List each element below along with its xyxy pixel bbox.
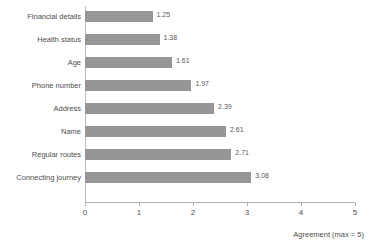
category-label-name: Name [0,126,81,137]
bar-row: 3.08 [85,172,355,183]
bar-value-label: 3.08 [255,170,269,181]
x-axis-title: Agreement (max = 5) [293,229,364,240]
x-axis-tick-label: 1 [127,207,151,218]
bar-row: 1.97 [85,80,355,91]
bar [85,103,214,114]
bar [85,149,231,160]
category-label-phone-number: Phone number [0,80,81,91]
bar-row: 2.39 [85,103,355,114]
bar-value-label: 1.61 [176,55,190,66]
bar-value-label: 1.25 [157,9,171,20]
x-axis-tick-label: 4 [289,207,313,218]
bar-row: 2.71 [85,149,355,160]
bar [85,80,191,91]
bar [85,126,226,137]
bar-row: 1.61 [85,57,355,68]
bar-row: 2.61 [85,126,355,137]
bar-value-label: 2.61 [230,124,244,135]
category-label-connecting-journey: Connecting journey [0,172,81,183]
x-axis-tick [139,203,140,206]
x-axis-tick [355,203,356,206]
category-label-regular-routes: Regular routes [0,149,81,160]
bar-value-label: 1.38 [164,32,178,43]
x-axis-tick [301,203,302,206]
bar-value-label: 1.97 [195,78,209,89]
bar-row: 1.38 [85,34,355,45]
x-axis-tick-label: 3 [235,207,259,218]
bar [85,172,251,183]
category-label-financial-details: Financial details [0,11,81,22]
bar-row: 1.25 [85,11,355,22]
bar-chart: Financial detailsHealth statusAgePhone n… [0,0,372,251]
category-label-health-status: Health status [0,34,81,45]
x-axis-tick-label: 0 [73,207,97,218]
category-label-address: Address [0,103,81,114]
bar [85,34,160,45]
x-axis-tick [193,203,194,206]
bar-value-label: 2.71 [235,147,249,158]
bar-series: 1.251.381.611.972.392.612.713.08 [85,6,355,202]
x-axis-tick-label: 5 [343,207,367,218]
x-axis-tick [85,203,86,206]
bar [85,57,172,68]
bar [85,11,153,22]
x-axis-tick-label: 2 [181,207,205,218]
x-axis-line [85,202,355,203]
bar-value-label: 2.39 [218,101,232,112]
category-label-age: Age [0,57,81,68]
x-axis-tick [247,203,248,206]
